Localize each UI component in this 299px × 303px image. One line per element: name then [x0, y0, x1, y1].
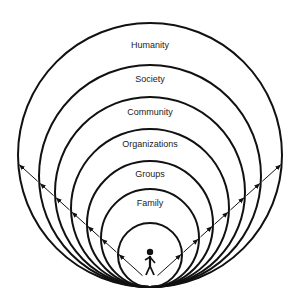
ring-label-groups: Groups: [135, 169, 165, 179]
outward-arrow: [214, 212, 227, 224]
outward-arrow: [262, 165, 280, 181]
outward-arrow: [19, 165, 37, 181]
ring-humanity: [18, 23, 282, 287]
outward-arrow: [183, 239, 197, 252]
ring-label-humanity: Humanity: [131, 40, 170, 50]
nested-circles-diagram: HumanitySocietyCommunityOrganizationsGro…: [0, 0, 299, 303]
outward-arrow: [56, 198, 69, 210]
outward-arrow: [200, 227, 211, 237]
rings-group: [18, 23, 282, 287]
ring-label-organizations: Organizations: [122, 139, 178, 149]
ring-label-family: Family: [137, 198, 164, 208]
ring-label-society: Society: [135, 74, 165, 84]
person-icon: [145, 249, 155, 275]
outward-arrow: [230, 198, 243, 210]
outward-arrow: [88, 227, 99, 237]
outward-arrow: [40, 184, 53, 196]
outward-arrow: [102, 239, 116, 252]
outward-arrow: [246, 184, 259, 196]
ring-label-community: Community: [127, 107, 173, 117]
outward-arrow: [72, 212, 85, 224]
